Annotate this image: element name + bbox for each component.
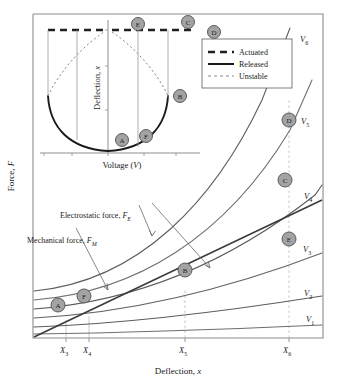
marker-b[interactable]: B: [178, 263, 192, 277]
inset-plot: E C D B A: [40, 16, 221, 171]
xtick-x4: X4: [82, 345, 91, 357]
legend-label-released: Released: [239, 60, 268, 69]
main-axis-titles: Deflection, x Force, F: [6, 160, 201, 376]
curve-v2: [34, 296, 322, 327]
arrow-fe-2: [152, 203, 210, 268]
inset-marker-a[interactable]: A: [116, 134, 129, 147]
inset-marker-b[interactable]: B: [174, 90, 187, 103]
marker-b-label: B: [183, 267, 188, 275]
xtick-x6: X6: [282, 345, 291, 357]
legend-label-unstable: Unstable: [239, 72, 268, 81]
inset-marker-d-label: D: [211, 29, 216, 37]
marker-a[interactable]: A: [51, 298, 65, 312]
inset-marker-f[interactable]: F: [140, 130, 153, 143]
marker-c[interactable]: C: [278, 173, 292, 187]
marker-e[interactable]: E: [282, 232, 296, 246]
figure-svg: A F B E C D V1: [0, 0, 338, 385]
inset-marker-a-label: A: [119, 137, 124, 145]
inset-xlabel: Voltage (V): [103, 160, 142, 170]
force-annotations: Electrostatic force, FE Mechanical force…: [27, 211, 131, 247]
label-v5: V5: [301, 116, 309, 128]
curve-v5: [34, 80, 312, 300]
x-axis-tick-labels: X3 X4 X5 X6: [59, 345, 291, 357]
inset-marker-e[interactable]: E: [132, 18, 145, 31]
annotation-mechanical: Mechanical force, FM: [27, 236, 98, 247]
marker-c-label: C: [283, 177, 288, 185]
main-ylabel: Force, F: [6, 160, 16, 191]
curve-v3: [34, 253, 322, 318]
inset-unstable-right: [112, 32, 168, 96]
marker-d[interactable]: D: [282, 113, 296, 127]
inset-marker-c-label: C: [186, 19, 191, 27]
main-xlabel: Deflection, x: [155, 366, 201, 376]
label-v2: V2: [304, 288, 312, 300]
inset-ylabel: Deflection, x: [92, 66, 102, 110]
label-v1: V1: [306, 314, 314, 326]
figure-container: A F B E C D V1: [0, 0, 338, 385]
curve-v4: [34, 185, 322, 309]
inset-marker-b-label: B: [178, 93, 183, 101]
marker-e-label: E: [287, 236, 291, 244]
label-v3: V3: [303, 244, 311, 256]
inset-marker-d[interactable]: D: [208, 26, 221, 39]
curve-v1: [34, 325, 322, 334]
xtick-x3: X3: [59, 345, 68, 357]
legend-label-actuated: Actuated: [239, 48, 268, 57]
inset-marker-c[interactable]: C: [182, 16, 195, 29]
marker-a-label: A: [55, 302, 60, 310]
inset-marker-e-label: E: [136, 21, 140, 29]
label-v4: V4: [304, 191, 312, 203]
label-v6: V6: [300, 34, 308, 46]
xtick-x5: X5: [178, 345, 187, 357]
annotation-electrostatic: Electrostatic force, FE: [60, 211, 131, 222]
legend: Actuated Released Unstable: [202, 39, 292, 88]
marker-f-label: F: [82, 293, 86, 301]
marker-d-label: D: [286, 117, 291, 125]
inset-marker-f-label: F: [144, 133, 148, 141]
marker-f[interactable]: F: [77, 289, 91, 303]
curve-value-labels: V1 V2 V3 V4 V5 V6: [300, 34, 314, 326]
